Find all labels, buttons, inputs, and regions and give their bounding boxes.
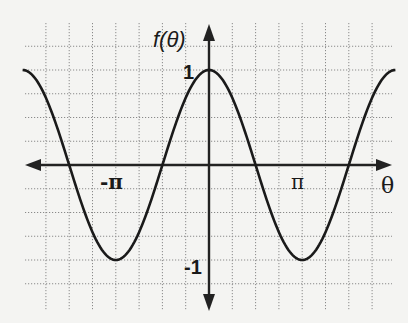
y-tick-neg-1: -1 [184, 256, 202, 278]
axes [25, 24, 392, 311]
x-tick-neg-pi: -π [100, 170, 123, 194]
cosine-graph: f(θ) 1 -1 -π π θ [0, 0, 408, 323]
x-axis-right-arrow-icon [376, 159, 392, 171]
y-tick-1: 1 [183, 61, 194, 83]
y-axis-label: f(θ) [153, 27, 186, 52]
x-tick-pi: π [291, 170, 304, 194]
x-axis-label: θ [381, 173, 394, 198]
x-axis-left-arrow-icon [25, 159, 41, 171]
y-axis-down-arrow-icon [203, 294, 215, 311]
y-axis-up-arrow-icon [203, 24, 215, 41]
